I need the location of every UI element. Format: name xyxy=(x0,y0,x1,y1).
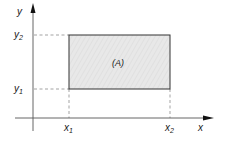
x-axis-arrow-icon xyxy=(203,116,214,121)
x2-label: x2 xyxy=(164,122,174,134)
y-axis-label: y xyxy=(16,6,23,17)
y-axis-arrow-icon xyxy=(31,3,36,13)
region-diagram: y x y2 y1 x1 x2 (A) xyxy=(0,0,226,141)
region-a-label: (A) xyxy=(112,58,124,68)
y1-label: y1 xyxy=(13,83,23,95)
y2-label: y2 xyxy=(13,29,23,41)
x-axis-label: x xyxy=(197,122,204,133)
x1-label: x1 xyxy=(63,122,73,134)
